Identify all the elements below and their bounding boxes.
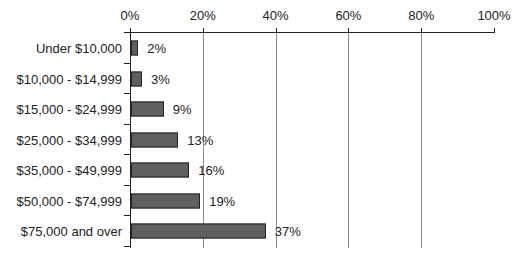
category-label: $25,000 - $34,999 xyxy=(16,132,122,147)
bar xyxy=(131,102,164,117)
x-tick-mark xyxy=(494,28,495,33)
value-label: 19% xyxy=(209,193,235,208)
income-distribution-chart: 0%20%40%60%80%100% Under $10,0002%$10,00… xyxy=(0,0,518,257)
x-tick-label: 60% xyxy=(335,8,361,23)
y-tick-mark xyxy=(124,63,130,64)
y-tick-mark xyxy=(124,93,130,94)
x-tick-label: 40% xyxy=(263,8,289,23)
y-tick-mark xyxy=(124,124,130,125)
x-tick-mark xyxy=(203,28,204,33)
category-label: $15,000 - $24,999 xyxy=(16,102,122,117)
y-tick-mark xyxy=(124,185,130,186)
y-tick-mark xyxy=(124,215,130,216)
value-label: 16% xyxy=(198,163,224,178)
bar xyxy=(131,224,266,239)
x-tick-label: 0% xyxy=(121,8,140,23)
x-tick-mark xyxy=(130,28,131,33)
x-tick-mark xyxy=(348,28,349,33)
value-label: 2% xyxy=(147,41,166,56)
x-tick-label: 20% xyxy=(190,8,216,23)
gridline xyxy=(421,32,422,248)
bar xyxy=(131,41,138,56)
y-tick-mark xyxy=(124,32,130,33)
value-label: 13% xyxy=(187,132,213,147)
category-label: $50,000 - $74,999 xyxy=(16,193,122,208)
category-label: $35,000 - $49,999 xyxy=(16,163,122,178)
category-label: Under $10,000 xyxy=(36,41,122,56)
bar xyxy=(131,71,142,86)
x-tick-label: 100% xyxy=(477,8,510,23)
gridline xyxy=(276,32,277,248)
x-tick-mark xyxy=(421,28,422,33)
bar xyxy=(131,163,189,178)
x-tick-mark xyxy=(276,28,277,33)
bar xyxy=(131,132,178,147)
y-tick-mark xyxy=(124,154,130,155)
category-label: $10,000 - $14,999 xyxy=(16,71,122,86)
category-label: $75,000 and over xyxy=(21,224,122,239)
bar xyxy=(131,193,200,208)
value-label: 9% xyxy=(173,102,192,117)
x-axis-line xyxy=(130,32,494,33)
x-tick-label: 80% xyxy=(408,8,434,23)
value-label: 37% xyxy=(275,224,301,239)
y-tick-mark xyxy=(124,246,130,247)
gridline xyxy=(348,32,349,248)
value-label: 3% xyxy=(151,71,170,86)
